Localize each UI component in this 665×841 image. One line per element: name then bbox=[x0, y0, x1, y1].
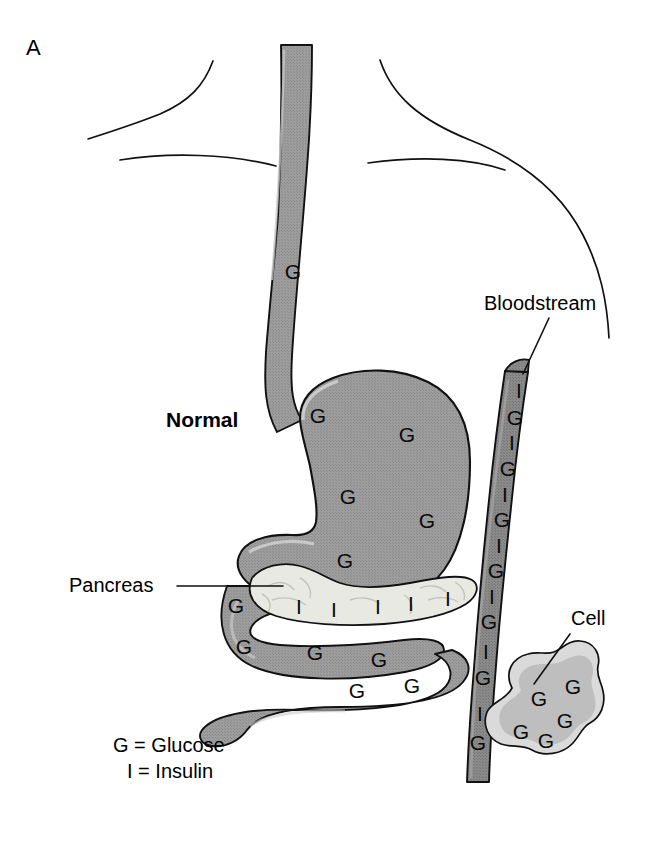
insulin-marker: I bbox=[331, 598, 337, 621]
glucose-marker: G bbox=[557, 709, 573, 732]
glucose-marker: G bbox=[228, 594, 244, 617]
glucose-marker: G bbox=[285, 260, 301, 283]
glucose-marker: G bbox=[340, 485, 356, 508]
glucose-marker: G bbox=[531, 687, 547, 710]
panel-letter: A bbox=[26, 37, 41, 59]
glucose-marker: G bbox=[337, 549, 353, 572]
glucose-marker: G bbox=[349, 679, 365, 702]
glucose-marker: G bbox=[419, 509, 435, 532]
glucose-marker: G bbox=[538, 729, 554, 752]
esophagus bbox=[265, 45, 312, 432]
glucose-marker: G bbox=[470, 731, 486, 754]
legend: G = Glucose I = Insulin bbox=[113, 733, 225, 784]
glucose-marker: G bbox=[565, 675, 581, 698]
insulin-marker: I bbox=[496, 534, 502, 557]
insulin-marker: I bbox=[509, 431, 515, 454]
glucose-marker: G bbox=[371, 648, 387, 671]
figure-canvas: G GGGGG IIIII GGGGGG IGIGIGIGIGIGIG GGGG… bbox=[0, 0, 665, 841]
insulin-marker: I bbox=[375, 595, 381, 618]
insulin-marker: I bbox=[502, 483, 508, 506]
right-clavicle-line bbox=[368, 159, 505, 170]
glucose-marker: G bbox=[399, 423, 415, 446]
insulin-marker: I bbox=[445, 587, 451, 610]
anatomy-diagram: G GGGGG IIIII GGGGGG IGIGIGIGIGIGIG GGGG… bbox=[0, 0, 665, 841]
glucose-marker: G bbox=[500, 457, 516, 480]
insulin-marker: I bbox=[477, 702, 483, 725]
insulin-marker: I bbox=[296, 595, 302, 618]
glucose-marker: G bbox=[236, 635, 252, 658]
glucose-marker: G bbox=[488, 559, 504, 582]
pancreas-label: Pancreas bbox=[69, 575, 154, 595]
left-neck-line bbox=[88, 61, 213, 139]
insulin-marker: I bbox=[489, 585, 495, 608]
bloodstream-label: Bloodstream bbox=[484, 293, 596, 313]
condition-label: Normal bbox=[166, 409, 238, 430]
cell-label: Cell bbox=[571, 608, 605, 628]
glucose-marker: G bbox=[404, 674, 420, 697]
legend-glucose: G = Glucose bbox=[113, 733, 225, 759]
glucose-marker: G bbox=[513, 720, 529, 743]
glucose-marker: G bbox=[481, 610, 497, 633]
legend-insulin: I = Insulin bbox=[113, 759, 225, 785]
glucose-marker: G bbox=[494, 508, 510, 531]
left-clavicle-line bbox=[120, 155, 276, 166]
insulin-marker: I bbox=[483, 640, 489, 663]
glucose-marker: G bbox=[310, 404, 326, 427]
esophagus-markers: G bbox=[285, 260, 301, 283]
glucose-marker: G bbox=[507, 406, 523, 429]
glucose-marker: G bbox=[307, 641, 323, 664]
esophagus-shape bbox=[265, 45, 312, 432]
glucose-marker: G bbox=[475, 666, 491, 689]
insulin-marker: I bbox=[408, 592, 414, 615]
bloodstream-leader bbox=[523, 318, 549, 374]
insulin-marker: I bbox=[516, 379, 522, 402]
